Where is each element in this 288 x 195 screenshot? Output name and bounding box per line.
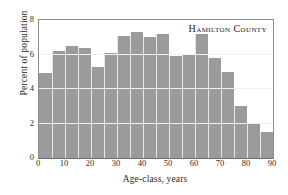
x-tick-label: 40 xyxy=(131,159,153,168)
bar xyxy=(65,46,78,158)
bar xyxy=(130,32,143,158)
x-tick-label: 80 xyxy=(235,159,257,168)
bar xyxy=(208,58,221,158)
bar xyxy=(182,55,195,159)
x-axis-tick-labels: 0102030405060708090 xyxy=(38,159,272,173)
x-tick-label: 60 xyxy=(183,159,205,168)
y-tick-label: 4 xyxy=(20,84,34,93)
bar xyxy=(52,51,65,158)
bar xyxy=(78,48,91,158)
bar xyxy=(247,124,260,159)
bar xyxy=(260,132,273,158)
bar xyxy=(117,36,130,158)
histogram-figure: Percent of population 02468 Hamilton Cou… xyxy=(0,0,288,195)
y-tick-label: 6 xyxy=(20,50,34,59)
x-tick-label: 30 xyxy=(105,159,127,168)
bar xyxy=(195,34,208,158)
bar xyxy=(143,37,156,158)
x-axis-title: Age-class, years xyxy=(38,174,272,184)
chart-title: Hamilton County xyxy=(189,23,267,34)
bar xyxy=(156,34,169,158)
bar xyxy=(234,106,247,158)
bar xyxy=(104,53,117,158)
bar xyxy=(91,67,104,158)
x-tick-label: 10 xyxy=(53,159,75,168)
bar xyxy=(169,56,182,158)
x-tick-label: 90 xyxy=(261,159,283,168)
y-tick-label: 8 xyxy=(20,15,34,24)
bar-series xyxy=(39,20,273,158)
bar xyxy=(39,73,52,158)
x-tick-label: 20 xyxy=(79,159,101,168)
y-tick-label: 2 xyxy=(20,119,34,128)
bar xyxy=(221,72,234,158)
x-tick-label: 50 xyxy=(157,159,179,168)
x-tick-label: 0 xyxy=(27,159,49,168)
plot-area: Hamilton County xyxy=(38,19,274,159)
x-tick-label: 70 xyxy=(209,159,231,168)
